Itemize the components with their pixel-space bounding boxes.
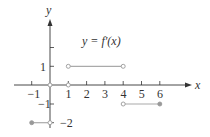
y-axis-arrow-icon [48, 19, 53, 26]
x-axis-arrow-icon [185, 83, 192, 88]
x-tick-label: 2 [84, 87, 90, 101]
open-dot-icon [48, 121, 52, 125]
x-tick-label: 3 [102, 87, 108, 101]
function-label: y = f'(x) [81, 34, 121, 48]
y-axis-label: y [45, 3, 52, 17]
derivative-graph: −1 1 2 3 4 5 6 1 −1 −2 x y y = f'(x) [0, 0, 210, 137]
closed-dot-icon [30, 121, 34, 125]
x-tick-label: 4 [120, 87, 126, 101]
y-tick-label: −1 [38, 97, 51, 111]
x-tick-label: 6 [157, 87, 163, 101]
open-dot-icon [121, 102, 125, 106]
open-dot-icon [66, 83, 70, 87]
y-tick-label: −2 [60, 116, 73, 130]
open-dot-icon [66, 64, 70, 68]
open-dot-icon [48, 83, 52, 87]
open-dot-icon [121, 64, 125, 68]
x-tick-label: 5 [139, 87, 145, 101]
x-tick-label: 1 [66, 87, 72, 101]
x-axis-label: x [194, 78, 201, 92]
closed-dot-icon [158, 102, 162, 106]
y-tick-label: 1 [40, 60, 46, 74]
